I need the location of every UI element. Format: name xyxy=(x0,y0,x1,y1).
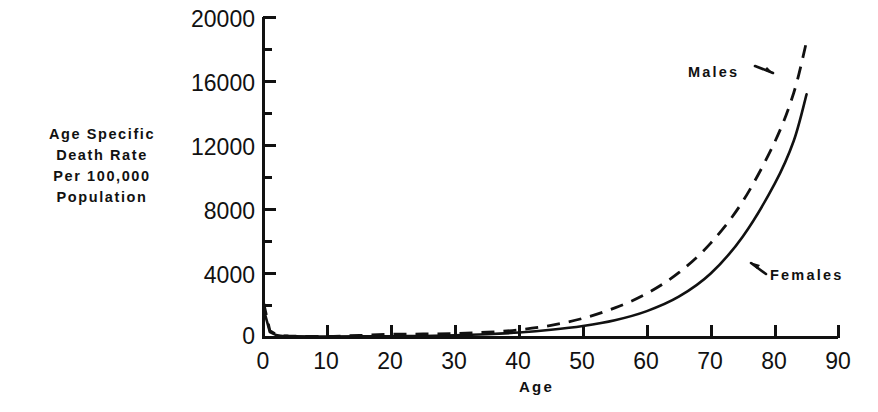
males-leader-arrow xyxy=(755,66,774,74)
series-curve-females xyxy=(264,94,807,336)
series-curve-males xyxy=(264,42,807,337)
chart-figure: Age Specific Death Rate Per 100,000 Popu… xyxy=(0,0,878,412)
females-leader-arrow xyxy=(750,262,766,274)
plot-area xyxy=(0,0,878,412)
